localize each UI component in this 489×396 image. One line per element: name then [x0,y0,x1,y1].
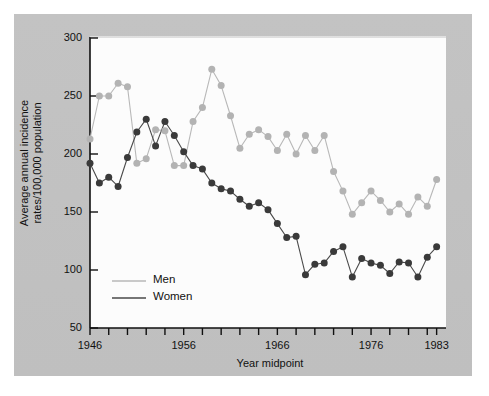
data-point-women-1967 [283,234,290,241]
data-point-men-1955 [171,162,178,169]
data-point-men-1969 [302,132,309,139]
data-point-women-1955 [171,132,178,139]
data-point-men-1983 [433,176,440,183]
data-point-women-1982 [424,254,431,261]
data-point-women-1978 [386,270,393,277]
data-point-women-1957 [190,162,197,169]
data-point-men-1950 [124,83,131,90]
data-point-women-1950 [124,154,131,161]
data-point-women-1960 [218,185,225,192]
data-point-women-1961 [227,188,234,195]
data-point-men-1971 [321,132,328,139]
data-point-men-1979 [396,200,403,207]
data-point-women-1977 [377,262,384,269]
data-point-women-1972 [330,248,337,255]
data-point-women-1974 [349,273,356,280]
data-point-men-1964 [255,126,262,133]
chart-svg [0,0,489,396]
y-tick-label-150: 150 [48,205,82,217]
data-point-women-1981 [414,273,421,280]
x-tick-label-1976: 1976 [347,339,395,351]
data-point-women-1949 [115,183,122,190]
x-tick-label-1946: 1946 [66,339,114,351]
data-point-men-1981 [414,193,421,200]
legend-label-women: Women [153,290,192,302]
series-group [87,66,441,281]
data-point-women-1969 [302,271,309,278]
data-point-men-1959 [208,66,215,73]
data-point-men-1956 [180,162,187,169]
data-point-men-1967 [283,131,290,138]
x-tick-label-1966: 1966 [253,339,301,351]
x-axis-title: Year midpoint [150,357,390,369]
data-point-men-1972 [330,168,337,175]
data-point-women-1954 [161,118,168,125]
data-point-women-1958 [199,166,206,173]
data-point-men-1960 [218,82,225,89]
axes-group [90,37,446,335]
figure-root: 5010015020025030019461956196619761983 Av… [0,0,489,396]
series-line-men [90,69,437,214]
data-point-men-1947 [96,93,103,100]
data-point-women-1979 [396,258,403,265]
series-line-women [90,119,437,277]
data-point-men-1982 [424,203,431,210]
data-point-women-1948 [105,174,112,181]
y-tick-label-300: 300 [48,31,82,43]
data-point-men-1962 [236,145,243,152]
data-point-men-1951 [133,160,140,167]
data-point-women-1952 [143,116,150,123]
data-point-women-1975 [358,255,365,262]
data-point-men-1949 [115,80,122,87]
data-point-men-1958 [199,104,206,111]
data-point-women-1983 [433,243,440,250]
data-point-women-1968 [293,233,300,240]
data-point-women-1953 [152,142,159,149]
data-point-men-1963 [246,131,253,138]
data-point-men-1978 [386,209,393,216]
data-point-women-1966 [274,220,281,227]
data-point-men-1977 [377,197,384,204]
data-point-men-1980 [405,211,412,218]
data-point-women-1964 [255,199,262,206]
y-axis-title-line1: Average annual incidence [18,68,31,258]
data-point-women-1965 [265,206,272,213]
data-point-women-1973 [339,243,346,250]
data-point-men-1974 [349,211,356,218]
data-point-men-1952 [143,155,150,162]
data-point-women-1956 [180,148,187,155]
data-point-men-1954 [161,127,168,134]
y-tick-label-250: 250 [48,89,82,101]
data-point-women-1971 [321,260,328,267]
data-point-men-1966 [274,147,281,154]
x-tick-label-1983: 1983 [413,339,461,351]
y-axis-title: Average annual incidence rates/100,000 p… [18,68,44,258]
data-point-men-1953 [152,126,159,133]
data-point-women-1962 [236,196,243,203]
data-point-men-1976 [368,188,375,195]
data-point-women-1951 [133,128,140,135]
data-point-men-1970 [311,147,318,154]
y-axis-title-line2: rates/100,000 population [31,68,44,258]
data-point-women-1947 [96,180,103,187]
data-point-women-1963 [246,203,253,210]
data-point-men-1968 [293,151,300,158]
data-point-women-1980 [405,260,412,267]
y-tick-label-50: 50 [48,321,82,333]
legend-group [112,281,146,298]
data-point-men-1975 [358,199,365,206]
data-point-men-1957 [190,118,197,125]
data-point-women-1970 [311,261,318,268]
y-tick-label-100: 100 [48,263,82,275]
data-point-men-1946 [87,135,94,142]
data-point-women-1946 [87,160,94,167]
data-point-men-1973 [339,188,346,195]
y-tick-label-200: 200 [48,147,82,159]
data-point-women-1976 [368,260,375,267]
data-point-men-1961 [227,112,234,119]
data-point-men-1948 [105,93,112,100]
data-point-women-1959 [208,180,215,187]
x-tick-label-1956: 1956 [160,339,208,351]
legend-label-men: Men [153,273,175,285]
data-point-men-1965 [265,133,272,140]
